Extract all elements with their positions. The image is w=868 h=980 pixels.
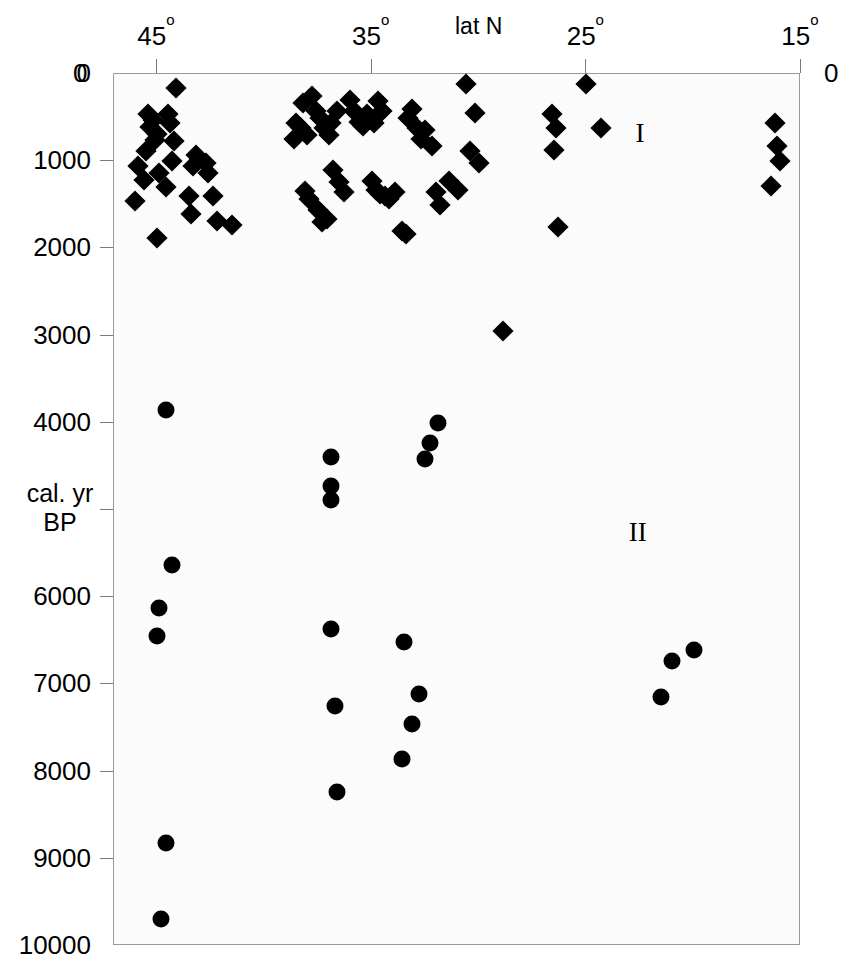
data-point-ii: [157, 401, 174, 418]
y-tick-mark: [100, 247, 113, 248]
data-point-i: [544, 139, 565, 160]
x-tick-label: 15o: [781, 21, 818, 52]
y-tick-label: 7000: [33, 668, 91, 699]
y-tick-mark: [100, 683, 113, 684]
x-tick-label: 45o: [137, 21, 174, 52]
data-point-i: [760, 176, 781, 197]
data-point-i: [591, 117, 612, 138]
data-point-ii: [685, 641, 702, 658]
data-point-i: [769, 151, 790, 172]
plot-area: III: [113, 73, 800, 945]
data-point-ii: [395, 633, 412, 650]
data-point-i: [125, 191, 146, 212]
y-tick-label: 0: [77, 58, 91, 89]
data-point-i: [576, 73, 597, 94]
y-tick-mark: [100, 160, 113, 161]
x-tick-mark: [156, 59, 157, 73]
data-point-ii: [153, 910, 170, 927]
data-point-ii: [151, 599, 168, 616]
data-point-ii: [322, 621, 339, 638]
x-tick-mark: [585, 59, 586, 73]
x-tick-mark: [800, 59, 801, 73]
y-tick-mark: [100, 858, 113, 859]
x-axis-title: lat N: [455, 13, 502, 40]
y-axis-title-line1: cal. yr: [14, 479, 106, 508]
data-point-i: [166, 77, 187, 98]
y-tick-mark: [100, 596, 113, 597]
y-axis-title-line2: BP: [14, 508, 106, 537]
data-point-i: [765, 112, 786, 133]
data-point-ii: [329, 783, 346, 800]
data-point-i: [202, 185, 223, 206]
data-point-ii: [421, 434, 438, 451]
y-tick-mark: [100, 509, 113, 510]
data-point-ii: [417, 451, 434, 468]
data-point-ii: [148, 627, 165, 644]
data-point-i: [464, 103, 485, 124]
data-point-ii: [322, 491, 339, 508]
y-tick-label: 1000: [33, 145, 91, 176]
y-tick-mark: [100, 422, 113, 423]
x-tick-mark: [371, 59, 372, 73]
data-point-ii: [430, 414, 447, 431]
data-point-i: [455, 73, 476, 94]
data-point-i: [492, 321, 513, 342]
y-tick-mark: [100, 771, 113, 772]
axis-corner-zero-right: 0: [824, 58, 838, 89]
y-tick-label: 3000: [33, 319, 91, 350]
data-point-ii: [404, 715, 421, 732]
data-point-ii: [410, 685, 427, 702]
y-tick-mark: [100, 335, 113, 336]
y-axis-title: cal. yr BP: [14, 479, 106, 537]
y-tick-label: 8000: [33, 755, 91, 786]
y-tick-label: 2000: [33, 232, 91, 263]
data-point-ii: [393, 750, 410, 767]
data-point-i: [146, 227, 167, 248]
data-point-ii: [327, 698, 344, 715]
x-tick-label: 35o: [352, 21, 389, 52]
data-point-ii: [157, 835, 174, 852]
y-tick-label: 10000: [19, 930, 91, 961]
y-tick-label: 4000: [33, 406, 91, 437]
data-point-ii: [664, 652, 681, 669]
y-tick-label: 6000: [33, 581, 91, 612]
data-point-ii: [322, 448, 339, 465]
data-point-ii: [653, 689, 670, 706]
data-point-ii: [163, 556, 180, 573]
y-tick-label: 9000: [33, 842, 91, 873]
group-label-i: I: [635, 118, 644, 149]
figure-root: 0 0 lat N cal. yr BP 45o35o25o15o 010002…: [0, 0, 868, 980]
group-label-ii: II: [629, 516, 647, 547]
data-point-i: [181, 203, 202, 224]
x-tick-label: 25o: [567, 21, 604, 52]
data-point-i: [548, 217, 569, 238]
